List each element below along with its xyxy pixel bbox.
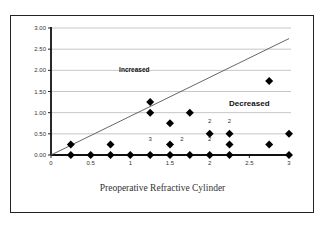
data-point-diamond — [126, 151, 134, 159]
data-point-diamond — [226, 140, 234, 148]
data-point-diamond — [265, 140, 273, 148]
data-point-diamond — [146, 109, 154, 117]
count-label: 2 — [228, 118, 232, 124]
increased-label: Increased — [119, 66, 149, 73]
x-tick-label: 3 — [287, 160, 291, 166]
data-point-diamond — [226, 130, 234, 138]
data-point-diamond — [166, 140, 174, 148]
data-point-diamond — [285, 130, 293, 138]
data-point-diamond — [166, 151, 174, 159]
y-tick-label: 0.00 — [34, 152, 46, 158]
x-tick-label: 0 — [49, 160, 53, 166]
y-tick-label: 0.50 — [34, 131, 46, 137]
x-axis-label: Preoperative Refractive Cylinder — [0, 183, 325, 193]
x-tick-label: 2 — [208, 160, 212, 166]
data-point-diamond — [226, 151, 234, 159]
data-point-diamond — [206, 151, 214, 159]
reference-line — [51, 39, 289, 155]
y-tick-label: 1.00 — [34, 110, 46, 116]
data-point-diamond — [285, 151, 293, 159]
y-tick-label: 3.00 — [34, 25, 46, 31]
data-point-diamond — [67, 151, 75, 159]
x-tick-label: 2.5 — [245, 160, 254, 166]
y-tick-label: 2.00 — [34, 67, 46, 73]
data-point-diamond — [186, 109, 194, 117]
data-point-diamond — [146, 151, 154, 159]
data-point-diamond — [67, 140, 75, 148]
count-label: 2 — [208, 136, 212, 142]
scatter-plot: 0.000.501.001.502.002.503.0000.511.522.5… — [0, 0, 325, 228]
data-point-diamond — [107, 151, 115, 159]
count-label: 2 — [208, 118, 212, 124]
data-point-diamond — [186, 151, 194, 159]
x-tick-label: 1.5 — [166, 160, 175, 166]
data-point-diamond — [107, 140, 115, 148]
count-label: 2 — [180, 136, 184, 142]
x-tick-label: 1 — [129, 160, 133, 166]
data-point-diamond — [166, 119, 174, 127]
y-tick-label: 1.50 — [34, 89, 46, 95]
decreased-label: Decreased — [229, 99, 270, 108]
data-point-diamond — [265, 77, 273, 85]
y-tick-label: 2.50 — [34, 46, 46, 52]
x-tick-label: 0.5 — [86, 160, 95, 166]
count-label: 3 — [148, 136, 152, 142]
data-point-diamond — [87, 151, 95, 159]
